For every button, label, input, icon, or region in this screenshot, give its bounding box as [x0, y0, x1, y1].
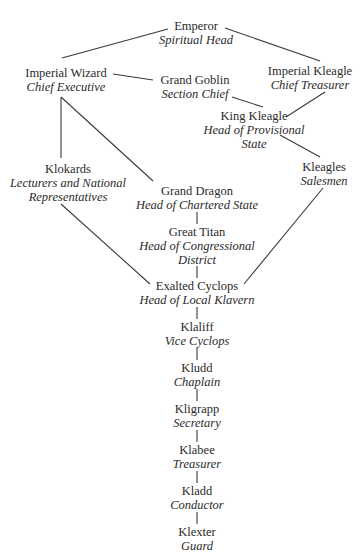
node-role: Head of Congressional [139, 239, 255, 253]
node-kladd: Kladd Conductor [170, 484, 223, 512]
node-role: Secretary [173, 416, 220, 430]
node-role: State [204, 137, 305, 151]
edge-grand-goblin-king-kleagle [232, 97, 263, 107]
node-role: Representatives [10, 190, 126, 204]
node-role: Head of Chartered State [136, 198, 258, 212]
edge-emperor-imperial-wizard [62, 29, 168, 58]
node-role: Treasurer [173, 457, 221, 471]
edge-imperial-wizard-grand-goblin [113, 74, 153, 80]
node-role: Head of Provisional [204, 123, 305, 137]
node-title: Kladd [170, 484, 223, 498]
node-title: Klaliff [165, 320, 230, 334]
node-title: Emperor [159, 19, 233, 33]
node-role: Chief Executive [25, 80, 107, 94]
node-title: Kludd [174, 361, 221, 375]
node-title: Imperial Wizard [25, 66, 107, 80]
node-grand-dragon: Grand Dragon Head of Chartered State [136, 184, 258, 212]
node-role: Spiritual Head [159, 33, 233, 47]
node-kligrapp: Kligrapp Secretary [173, 402, 220, 430]
node-title: Klokards [10, 162, 126, 176]
node-title: Grand Dragon [136, 184, 258, 198]
node-title: Kligrapp [173, 402, 220, 416]
node-grand-goblin: Grand Goblin Section Chief [160, 73, 229, 101]
node-imperial-wizard: Imperial Wizard Chief Executive [25, 66, 107, 94]
node-klokards: Klokards Lecturers and National Represen… [10, 162, 126, 204]
node-role: Section Chief [160, 87, 229, 101]
node-exalted-cyclops: Exalted Cyclops Head of Local Klavern [140, 279, 255, 307]
edge-klokards-exalted-cyclops [61, 204, 150, 284]
node-title: Klexter [178, 525, 215, 539]
node-emperor: Emperor Spiritual Head [159, 19, 233, 47]
node-role: Chief Treasurer [268, 78, 352, 92]
node-imperial-kleagle: Imperial Kleagle Chief Treasurer [268, 64, 352, 92]
node-title: Imperial Kleagle [268, 64, 352, 78]
node-klabee: Klabee Treasurer [173, 443, 221, 471]
edge-emperor-imperial-kleagle [225, 28, 320, 61]
node-role: Conductor [170, 498, 223, 512]
node-role: Guard [178, 539, 215, 553]
node-title: Grand Goblin [160, 73, 229, 87]
node-kleagles: Kleagles Salesmen [300, 160, 347, 188]
node-role: Vice Cyclops [165, 334, 230, 348]
node-role: Salesmen [300, 174, 347, 188]
node-title: Klabee [173, 443, 221, 457]
node-role: District [139, 253, 255, 267]
node-kludd: Kludd Chaplain [174, 361, 221, 389]
node-role: Chaplain [174, 375, 221, 389]
node-king-kleagle: King Kleagle Head of Provisional State [204, 109, 305, 151]
node-klexter: Klexter Guard [178, 525, 215, 553]
node-title: Great Titan [139, 225, 255, 239]
node-title: Exalted Cyclops [140, 279, 255, 293]
node-role: Lecturers and National [10, 176, 126, 190]
node-klaliff: Klaliff Vice Cyclops [165, 320, 230, 348]
node-role: Head of Local Klavern [140, 293, 255, 307]
node-great-titan: Great Titan Head of Congressional Distri… [139, 225, 255, 267]
node-title: King Kleagle [204, 109, 305, 123]
node-title: Kleagles [300, 160, 347, 174]
